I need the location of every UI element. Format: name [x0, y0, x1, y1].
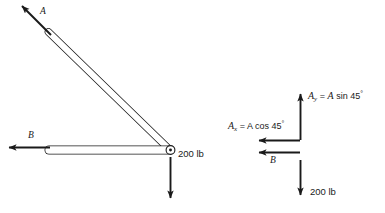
- ax-function: cos: [255, 121, 269, 131]
- ay-angle: 45: [350, 91, 360, 101]
- inclined-bar: [49, 32, 171, 150]
- force-a-label: A: [40, 7, 46, 17]
- fbd-load-label: 200 lb: [310, 187, 336, 197]
- ax-magnitude: A: [247, 121, 253, 131]
- force-b-label: B: [28, 131, 34, 141]
- ay-magnitude: A: [328, 90, 334, 101]
- ax-degree-sign: °: [282, 120, 285, 127]
- ax-equals: =: [240, 121, 245, 131]
- load-label: 200 lb: [178, 149, 204, 159]
- ay-subscript: y: [314, 95, 317, 103]
- force-a-arrow: [22, 6, 51, 35]
- ax-angle: 45: [272, 121, 282, 131]
- ax-component-label: Ax = A cos 45°: [228, 120, 284, 133]
- ay-equals: =: [320, 91, 325, 101]
- b-reaction-label: B: [270, 156, 276, 166]
- ax-subscript: x: [234, 125, 237, 133]
- diagram-canvas: [0, 0, 385, 213]
- pin-joint-icon: [166, 146, 175, 155]
- ay-degree-sign: °: [360, 90, 363, 97]
- ay-component-label: Ay = A sin 45°: [308, 90, 363, 103]
- force-diagram-figure: A B 200 lb Ay = A sin 45° Ax = A cos 45°…: [0, 0, 385, 213]
- ay-function: sin: [336, 91, 348, 101]
